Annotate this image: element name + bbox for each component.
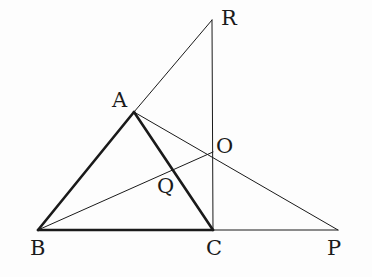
segment-rc — [212, 20, 213, 230]
label-q: Q — [157, 176, 174, 197]
label-b: B — [30, 238, 45, 259]
segment-ab — [38, 112, 134, 230]
label-a: A — [112, 90, 127, 111]
segment-ap — [134, 112, 338, 230]
geometry-diagram: R A O Q B C P — [0, 0, 372, 277]
diagram-lines — [0, 0, 372, 277]
label-o: O — [216, 136, 233, 157]
label-c: C — [206, 238, 222, 259]
segment-ac — [134, 112, 213, 230]
label-p: P — [327, 238, 341, 259]
segment-ar — [134, 20, 212, 112]
label-r: R — [221, 8, 237, 29]
